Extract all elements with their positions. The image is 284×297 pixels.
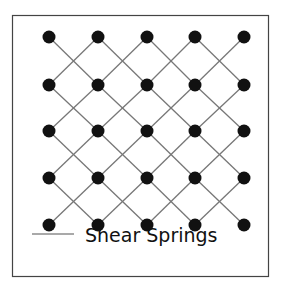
mass-node <box>43 79 56 92</box>
mass-node <box>141 125 154 138</box>
mass-node <box>189 79 202 92</box>
mass-node <box>141 172 154 185</box>
mass-node <box>92 79 105 92</box>
shear-spring-diagram: Shear Springs <box>0 0 284 297</box>
mass-node <box>43 219 56 232</box>
mass-node <box>43 172 56 185</box>
mass-node <box>238 31 251 44</box>
mass-node <box>141 31 154 44</box>
mass-node <box>189 125 202 138</box>
mass-node <box>238 219 251 232</box>
mass-node <box>189 31 202 44</box>
mass-node <box>238 172 251 185</box>
legend-label: Shear Springs <box>85 224 218 246</box>
mass-node <box>238 79 251 92</box>
mass-node <box>92 172 105 185</box>
lattice-svg: Shear Springs <box>0 0 284 297</box>
mass-node <box>238 125 251 138</box>
mass-node <box>92 31 105 44</box>
mass-node <box>189 172 202 185</box>
mass-node <box>43 31 56 44</box>
mass-node <box>43 125 56 138</box>
mass-node <box>141 79 154 92</box>
mass-node <box>92 125 105 138</box>
